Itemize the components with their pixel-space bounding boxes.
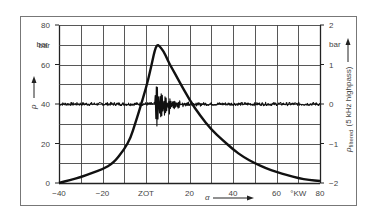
svg-text:40: 40 (229, 189, 238, 198)
left-axis-unit: bar (36, 40, 48, 49)
svg-text:ZOT: ZOT (138, 189, 154, 198)
right-axis-unit: bar (329, 40, 341, 49)
svg-text:1: 1 (329, 61, 334, 70)
outer-frame (21, 17, 357, 206)
svg-text:60: 60 (41, 61, 50, 70)
svg-text:−2: −2 (329, 179, 339, 188)
pressure-knock-chart: −40−20ZOT204060°KW800204060bar80−2−1012 … (0, 0, 381, 224)
svg-text:0: 0 (329, 100, 334, 109)
svg-text:20: 20 (41, 140, 50, 149)
left-axis-arrow (32, 76, 37, 98)
right-axis-label: pfiltered(5 kHz highpass) (344, 66, 354, 153)
filtered-pressure-curve (59, 87, 320, 126)
svg-text:40: 40 (41, 100, 50, 109)
left-axis-label: p (29, 104, 38, 110)
svg-text:60: 60 (272, 189, 281, 198)
x-axis-label: α (205, 193, 210, 202)
svg-text:−1: −1 (329, 140, 339, 149)
svg-text:−20: −20 (96, 189, 110, 198)
axis-ticks: −40−20ZOT204060°KW800204060bar80−2−1012 (38, 21, 338, 198)
svg-text:−40: −40 (52, 189, 66, 198)
svg-text:2: 2 (329, 21, 334, 30)
svg-text:80: 80 (316, 189, 325, 198)
svg-text:0: 0 (46, 179, 51, 188)
right-axis-arrow (346, 38, 351, 62)
svg-text:20: 20 (185, 189, 194, 198)
svg-text:80: 80 (41, 21, 50, 30)
svg-text:°KW: °KW (290, 189, 307, 198)
